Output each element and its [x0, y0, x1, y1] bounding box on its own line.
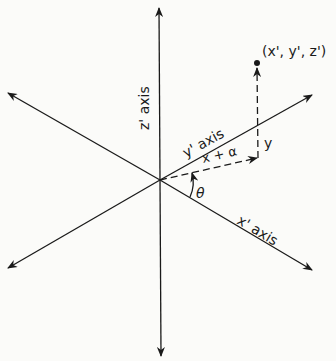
axis-lower-left	[8, 180, 160, 268]
z-axis-label: z' axis	[136, 86, 152, 130]
x-axis-label: x' axis	[234, 212, 281, 249]
angle-arc	[190, 173, 193, 197]
coordinate-diagram: (x', y', z') z' axis y' axis x + α y θ x…	[0, 0, 336, 361]
dashed-vertical	[257, 68, 258, 158]
point-label: (x', y', z')	[262, 43, 326, 59]
y-label: y	[264, 135, 272, 151]
z-axis-up	[159, 8, 160, 180]
y-axis	[160, 95, 312, 180]
point-marker	[254, 60, 260, 66]
z-axis-down	[160, 180, 161, 356]
angle-label: θ	[196, 185, 205, 201]
